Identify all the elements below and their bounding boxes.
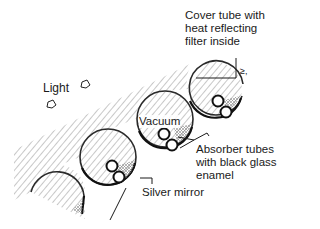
cover-tube-label: Cover tube with heat reflecting filter i… bbox=[185, 9, 265, 48]
silver-mirror-label: Silver mirror bbox=[142, 186, 204, 199]
light-arrow-icon bbox=[47, 100, 56, 108]
light-label: Light bbox=[43, 82, 69, 95]
absorber-tubes-label: Absorber tubes with black glass enamel bbox=[196, 143, 277, 182]
small-mark-label: ≥, bbox=[240, 65, 247, 78]
vacuum-label: Vacuum bbox=[139, 115, 180, 128]
light-arrow-icon bbox=[81, 80, 90, 88]
